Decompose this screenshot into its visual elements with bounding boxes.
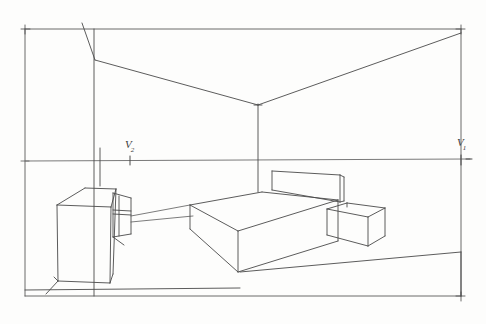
wardrobe-dresser: [46, 148, 116, 294]
perspective-sketch-page: V2 V1: [0, 0, 486, 324]
nightstand: [327, 203, 385, 246]
bed-headboard: [272, 171, 344, 202]
vanishing-point-2-label: V2: [125, 138, 135, 153]
page-border-frame: [21, 25, 465, 301]
perspective-construction-lines: [131, 205, 193, 222]
sketch-drawing: [0, 0, 486, 324]
vanishing-point-1-label: V1: [457, 136, 467, 151]
horizon-line: [21, 159, 470, 161]
bed: [190, 192, 338, 272]
